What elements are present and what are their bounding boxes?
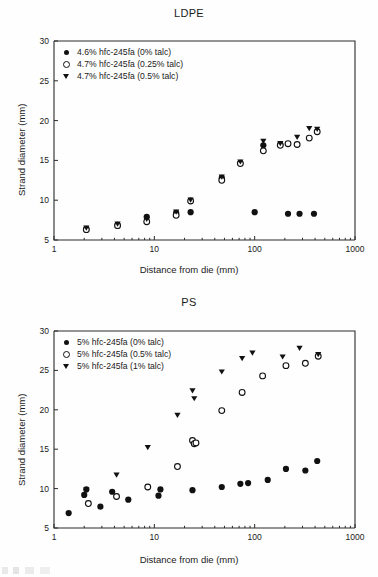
svg-text:10: 10 xyxy=(150,244,160,254)
open-circle-icon xyxy=(55,351,77,358)
plot-area-ldpe: Strand diameter (mm) 5101520253011010010… xyxy=(0,0,378,288)
svg-text:5: 5 xyxy=(44,523,49,533)
filled-circle-icon xyxy=(55,340,77,345)
marker-glyph xyxy=(63,364,69,369)
legend-ldpe: 4.6% hfc-245fa (0% talc)4.7% hfc-245fa (… xyxy=(55,46,183,82)
scatter-plot-ps: 510152025301101001000 xyxy=(0,288,378,577)
legend-item: 5% hfc-245fa (0% talc) xyxy=(55,336,171,348)
figure-ps: PS Strand diameter (mm) 5101520253011010… xyxy=(0,288,378,577)
scanned-figure-page: LDPE Strand diameter (mm) 51015202530110… xyxy=(0,0,378,577)
svg-text:20: 20 xyxy=(40,405,50,415)
open-circle-icon xyxy=(55,61,77,68)
svg-text:1000: 1000 xyxy=(346,244,365,254)
marker-glyph xyxy=(63,61,70,68)
x-axis-label-ldpe: Distance from die (mm) xyxy=(0,264,378,275)
svg-text:10: 10 xyxy=(40,484,50,494)
marker-glyph xyxy=(63,351,70,358)
svg-text:10: 10 xyxy=(150,532,160,542)
scatter-plot-ldpe: 510152025301101001000 xyxy=(0,0,378,288)
svg-text:1000: 1000 xyxy=(346,532,365,542)
legend-item-label: 5% hfc-245fa (0% talc) xyxy=(77,337,164,347)
legend-item: 4.6% hfc-245fa (0% talc) xyxy=(55,46,183,58)
plot-area-ps: Strand diameter (mm) 5101520253011010010… xyxy=(0,288,378,577)
marker-glyph xyxy=(63,74,69,79)
filled-circle-icon xyxy=(55,50,77,55)
legend-item-label: 4.6% hfc-245fa (0% talc) xyxy=(77,47,171,57)
x-axis-label-ps: Distance from die (mm) xyxy=(0,554,378,565)
svg-text:10: 10 xyxy=(40,195,50,205)
legend-item: 5% hfc-245fa (1% talc) xyxy=(55,360,171,372)
svg-text:30: 30 xyxy=(40,36,50,46)
marker-glyph xyxy=(64,50,69,55)
svg-text:20: 20 xyxy=(40,116,50,126)
legend-item-label: 5% hfc-245fa (1% talc) xyxy=(77,361,164,371)
svg-text:30: 30 xyxy=(40,326,50,336)
svg-text:1: 1 xyxy=(52,532,57,542)
legend-item-label: 5% hfc-245fa (0.5% talc) xyxy=(77,349,171,359)
legend-item: 4.7% hfc-245fa (0.5% talc) xyxy=(55,70,183,82)
svg-text:15: 15 xyxy=(40,444,50,454)
legend-ps: 5% hfc-245fa (0% talc)5% hfc-245fa (0.5%… xyxy=(55,336,171,372)
figure-ldpe: LDPE Strand diameter (mm) 51015202530110… xyxy=(0,0,378,288)
svg-text:100: 100 xyxy=(248,244,262,254)
svg-text:15: 15 xyxy=(40,155,50,165)
svg-text:25: 25 xyxy=(40,76,50,86)
svg-text:100: 100 xyxy=(248,532,262,542)
legend-item: 4.7% hfc-245fa (0.25% talc) xyxy=(55,58,183,70)
svg-text:25: 25 xyxy=(40,365,50,375)
legend-item: 5% hfc-245fa (0.5% talc) xyxy=(55,348,171,360)
filled-triangle-down-icon xyxy=(55,74,77,79)
legend-item-label: 4.7% hfc-245fa (0.5% talc) xyxy=(77,71,178,81)
svg-text:1: 1 xyxy=(52,244,57,254)
svg-text:5: 5 xyxy=(44,235,49,245)
marker-glyph xyxy=(64,340,69,345)
filled-triangle-down-icon xyxy=(55,364,77,369)
scan-edge-artifact xyxy=(2,567,64,574)
legend-item-label: 4.7% hfc-245fa (0.25% talc) xyxy=(77,59,183,69)
